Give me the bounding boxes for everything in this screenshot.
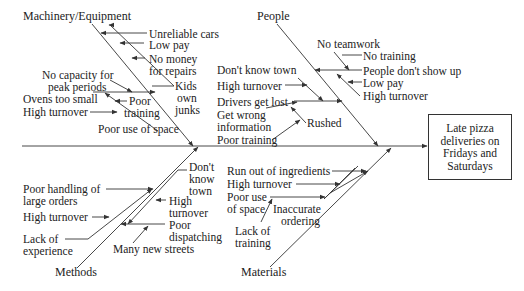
effect-label: Late pizza deliveries on Fridays and Sat…	[431, 122, 509, 172]
effect-box: Late pizza deliveries on Fridays and Sat…	[428, 114, 512, 180]
cause-label: Inaccurate	[273, 203, 321, 215]
cause-label: Drivers get lost	[217, 96, 288, 108]
cause-label: Get wrong	[217, 109, 266, 121]
cause-label: No money	[149, 53, 197, 65]
cause-label: Poor training	[217, 134, 277, 146]
cause-label: know	[189, 173, 215, 185]
cause-label: High turnover	[23, 106, 88, 118]
cause-label: Rushed	[307, 117, 342, 129]
category-materials-label: Materials	[241, 266, 286, 278]
cause-label: Low pay	[363, 77, 404, 89]
category-people-label: People	[257, 10, 290, 22]
cause-label: Don't know town	[217, 64, 296, 76]
cause-label: Lack of	[23, 233, 58, 245]
cause-label: High turnover	[227, 178, 292, 190]
cause-label: High turnover	[217, 80, 282, 92]
cause-label: Poor	[129, 95, 151, 107]
cause-label: Many new streets	[113, 243, 194, 255]
cause-label: turnover	[169, 207, 208, 219]
category-machinery-label: Machinery/Equipment	[23, 10, 131, 22]
cause-label: large orders	[23, 195, 77, 207]
cause-label: Poor use	[227, 191, 267, 203]
cause-label: Poor handling of	[23, 183, 100, 195]
cause-label: training	[124, 107, 160, 119]
cause-label: High turnover	[23, 211, 88, 223]
cause-label: for repairs	[149, 65, 197, 77]
cause-label: of space	[227, 203, 265, 215]
fishbone-diagram: Machinery/Equipment People Methods Mater…	[0, 0, 524, 291]
cause-label: experience	[23, 245, 73, 257]
category-methods-label: Methods	[55, 266, 97, 278]
cause-label: town	[189, 185, 212, 197]
cause-label: dispatching	[169, 231, 222, 243]
cause-label: ordering	[281, 215, 320, 227]
cause-label: information	[217, 121, 271, 133]
cause-label: training	[235, 237, 271, 249]
cause-label: peak periods	[48, 81, 106, 93]
cause-label: Kids	[175, 80, 197, 92]
cause-label: Poor	[169, 219, 191, 231]
cause-label: Poor use of space	[98, 123, 179, 135]
cause-label: Run out of ingredients	[227, 165, 330, 177]
cause-label: Low pay	[149, 39, 190, 51]
cause-label: No training	[363, 50, 416, 62]
cause-label: No capacity for	[42, 69, 114, 81]
cause-label: High	[169, 195, 192, 207]
cause-label: own	[177, 92, 197, 104]
cause-label: Don't	[189, 161, 214, 173]
cause-label: High turnover	[363, 90, 428, 102]
cause-label: No teamwork	[317, 38, 380, 50]
cause-label: junks	[175, 104, 200, 116]
cause-label: People don't show up	[363, 65, 461, 77]
cause-label: Lack of	[235, 225, 270, 237]
cause-label: Ovens too small	[23, 93, 98, 105]
